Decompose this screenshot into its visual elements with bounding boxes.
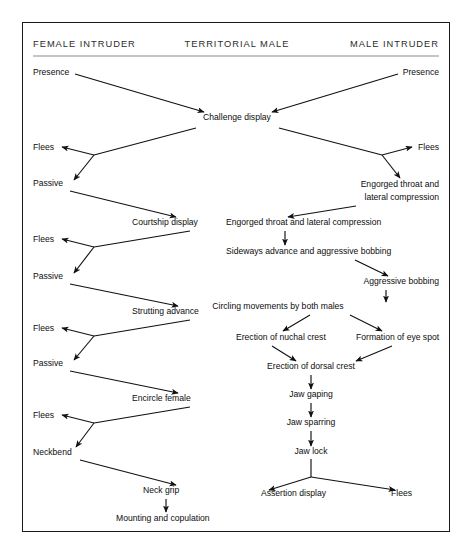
edge-passive-f3-to-encircle-female <box>70 371 178 393</box>
node-flees-female-4: Flees <box>33 410 54 420</box>
node-challenge-display: Challenge display <box>203 112 272 122</box>
edge-courtship-to-female-branch-2 <box>94 231 190 247</box>
edge-engorged-male-to-engorged-territorial <box>288 206 356 217</box>
edge-presence-female-to-challenge <box>75 74 204 112</box>
edge-male-branch-1-to-flees <box>382 147 412 155</box>
column-header-territorial-male: TERRITORIAL MALE <box>185 39 290 49</box>
node-erection-dorsal-crest: Erection of dorsal crest <box>267 361 355 371</box>
edge-female-branch-3-to-flees <box>62 328 94 336</box>
node-passive-female-3: Passive <box>33 358 63 368</box>
edge-male-branch-1-to-engorged-throat <box>382 155 400 178</box>
node-presence-female: Presence <box>33 67 70 77</box>
node-erection-nuchal-crest: Erection of nuchal crest <box>236 332 326 342</box>
edge-female-branch-2-to-flees <box>62 239 94 247</box>
column-header-male-intruder: MALE INTRUDER <box>350 39 439 49</box>
edge-encircle-to-female-branch-4 <box>94 407 190 423</box>
node-circling-movements: Circling movements by both males <box>212 301 343 311</box>
node-passive-female-2: Passive <box>33 271 63 281</box>
edge-strutting-to-female-branch-3 <box>94 320 190 336</box>
node-flees-female-2: Flees <box>33 234 54 244</box>
edge-female-branch-1-to-flees <box>62 147 94 155</box>
node-assertion-display: Assertion display <box>261 488 327 498</box>
node-strutting-advance: Strutting advance <box>132 306 199 316</box>
node-jaw-sparring: Jaw sparring <box>287 417 336 427</box>
edge-female-branch-1-to-passive <box>74 155 94 180</box>
ethogram-flowchart: FEMALE INTRUDER TERRITORIAL MALE MALE IN… <box>0 0 472 553</box>
edge-passive-f1-to-courtship-display <box>70 191 176 217</box>
node-formation-eye-spot: Formation of eye spot <box>356 332 440 342</box>
edge-circling-to-eye-spot <box>350 315 382 331</box>
edge-challenge-to-female-branch-1 <box>94 128 196 155</box>
node-sideways-advance: Sideways advance and aggressive bobbing <box>226 246 392 256</box>
edge-female-branch-3-to-passive <box>74 336 94 360</box>
edge-female-branch-2-to-passive <box>74 247 94 273</box>
column-header-female-intruder: FEMALE INTRUDER <box>33 39 136 49</box>
edge-neckbend-to-neck-grip <box>80 460 176 485</box>
node-courtship-display: Courtship display <box>132 217 199 227</box>
node-encircle-female: Encircle female <box>132 393 191 403</box>
node-aggressive-bobbing: Aggressive bobbing <box>364 276 440 286</box>
node-neck-grip: Neck grip <box>143 485 180 495</box>
edge-circling-to-nuchal-crest <box>283 315 310 331</box>
node-flees-male-1: Flees <box>418 142 439 152</box>
edge-nuchal-crest-to-dorsal-crest <box>272 346 296 361</box>
node-mounting-and-copulation: Mounting and copulation <box>116 513 210 523</box>
node-jaw-lock: Jaw lock <box>295 446 329 456</box>
node-jaw-gaping: Jaw gaping <box>289 389 333 399</box>
edge-eye-spot-to-dorsal-crest <box>356 346 392 361</box>
diagram-page: FEMALE INTRUDER TERRITORIAL MALE MALE IN… <box>0 0 472 553</box>
edge-passive-f2-to-strutting-advance <box>70 284 178 306</box>
node-flees-female-3: Flees <box>33 323 54 333</box>
node-neckbend: Neckbend <box>33 447 72 457</box>
node-engorged-throat-male-line1: Engorged throat and <box>361 179 440 189</box>
edge-presence-male-to-challenge <box>272 74 398 112</box>
edge-sideways-advance-to-aggressive-bobbing <box>355 260 388 276</box>
node-passive-female-1: Passive <box>33 178 63 188</box>
edge-female-branch-4-to-neckbend <box>76 423 94 447</box>
node-presence-male: Presence <box>403 67 440 77</box>
node-flees-male-2: Flees <box>391 488 412 498</box>
edge-female-branch-4-to-flees <box>62 415 94 423</box>
node-flees-female-1: Flees <box>33 142 54 152</box>
edge-challenge-to-male-branch-1 <box>279 128 382 155</box>
node-engorged-throat-territorial: Engorged throat and lateral compression <box>226 217 381 227</box>
node-engorged-throat-male-line2: lateral compression <box>364 192 439 202</box>
